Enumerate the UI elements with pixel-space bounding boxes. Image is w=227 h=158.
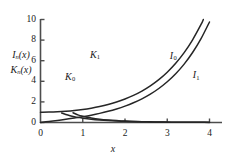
y-axis-label-k-arg: (x) [20,64,31,75]
y-axis-label-i-arg: (x) [19,49,30,60]
curve-label-subscript: 0 [72,75,75,82]
x-tick-label: 1 [73,129,93,139]
x-tick-label: 2 [115,129,135,139]
curve-label-subscript: 1 [97,53,100,60]
curve-label-K1: K1 [90,50,100,61]
y-tick-label: 2 [10,97,36,107]
y-axis-label: In(x) Kn(x) [4,48,38,79]
curve-label-base: K [90,49,97,60]
x-tick-label: 3 [157,129,177,139]
curve-label-I0: I0 [170,51,177,62]
curve-label-K0: K0 [65,72,75,83]
x-axis-label: x [103,144,123,154]
y-axis-label-line-1: In(x) [4,48,38,63]
y-axis-label-line-2: Kn(x) [4,63,38,78]
x-tick-label: 0 [31,129,51,139]
curve-label-base: K [65,71,72,82]
curve-label-subscript: 1 [196,74,199,81]
y-tick-label: 10 [10,15,36,25]
curve-label-I1: I1 [193,70,200,81]
curve-label-subscript: 0 [173,54,176,61]
x-tick-label: 4 [200,129,220,139]
y-tick-label: 8 [10,35,36,45]
bessel-function-chart: 0246810 01234 I0I1K0K1 In(x) Kn(x) x [0,0,227,158]
curve-I0 [41,20,204,113]
y-tick-label: 0 [10,118,36,128]
